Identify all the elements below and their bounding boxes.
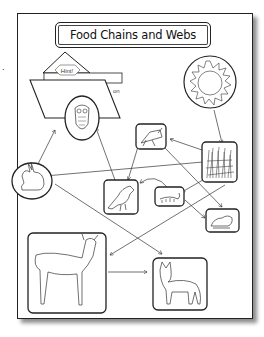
node-grass[interactable] (202, 142, 237, 182)
edge-bird-owl (96, 128, 115, 180)
edge-grass-rabbit (45, 162, 203, 176)
hint-tab-label: Hint! (61, 68, 74, 74)
node-owl[interactable] (65, 96, 99, 140)
page-title: Food Chains and Webs (55, 22, 211, 48)
node-wolf[interactable] (153, 258, 207, 310)
node-rabbit[interactable] (12, 162, 52, 199)
node-frog[interactable] (206, 209, 239, 232)
edge-caterpillar-frog (185, 200, 205, 218)
node-caterpillar[interactable] (155, 187, 184, 206)
node-sun[interactable] (184, 56, 236, 108)
hint-partial-text: on (113, 88, 120, 94)
edge-sun-grass (214, 110, 222, 143)
food-web-diagram: Hint! on (0, 0, 264, 337)
node-grasshopper[interactable] (136, 124, 166, 149)
node-bird[interactable] (104, 180, 138, 214)
edge-grass-grasshopper (170, 139, 202, 150)
node-deer[interactable] (28, 233, 106, 313)
